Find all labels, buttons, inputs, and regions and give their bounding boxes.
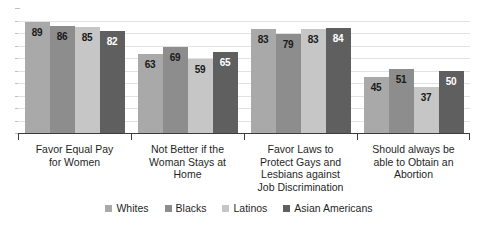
category-label-line: for Women [21, 156, 128, 169]
legend-item-3[interactable]: Asian Americans [283, 203, 372, 214]
bar-groups: 89868582636959658379838445513750 [18, 8, 470, 133]
bar-value-label: 51 [389, 75, 414, 85]
bar: 63 [138, 54, 163, 133]
bar-value-label: 79 [276, 40, 301, 50]
category-label-line: able to Obtain an [360, 156, 467, 169]
bar-value-label: 69 [163, 53, 188, 63]
category-label-line: Protect Gays and [247, 156, 354, 169]
category-label-2: Favor Laws toProtect Gays andLesbians ag… [244, 143, 357, 193]
legend-label: Asian Americans [294, 203, 372, 214]
category-label-0: Favor Equal Payfor Women [18, 143, 131, 193]
legend-item-0[interactable]: Whites [105, 203, 148, 214]
bar: 79 [276, 34, 301, 133]
legend-swatch-icon [222, 205, 229, 212]
bar-value-label: 83 [251, 35, 276, 45]
bar: 45 [364, 77, 389, 133]
bar-value-label: 85 [75, 33, 100, 43]
category-label-line: Favor Laws to [247, 143, 354, 156]
bar-value-label: 89 [25, 28, 50, 38]
category-label-line: Abortion [360, 168, 467, 181]
bar-value-label: 84 [326, 34, 351, 44]
category-label-1: Not Better if theWoman Stays atHome [131, 143, 244, 193]
x-axis-group-tick [357, 133, 358, 140]
category-label-line: Home [134, 168, 241, 181]
legend-swatch-icon [283, 205, 290, 212]
bar: 84 [326, 28, 351, 133]
bar-value-label: 86 [50, 32, 75, 42]
x-axis-group-tick [469, 133, 470, 140]
category-label-line: Favor Equal Pay [21, 143, 128, 156]
x-axis-group-tick [18, 133, 19, 140]
bar: 83 [301, 29, 326, 133]
legend-swatch-icon [165, 205, 172, 212]
legend-label: Blacks [176, 203, 207, 214]
legend-swatch-icon [105, 205, 112, 212]
category-label-line: Lesbians against [247, 168, 354, 181]
x-axis-group-tick [131, 133, 132, 140]
category-label-line: Not Better if the [134, 143, 241, 156]
bar: 51 [389, 69, 414, 133]
plot-area: 89868582636959658379838445513750 [18, 8, 470, 133]
category-label-3: Should always beable to Obtain anAbortio… [357, 143, 470, 193]
bar-group: 83798384 [244, 8, 357, 133]
bar: 69 [163, 47, 188, 133]
category-labels: Favor Equal Payfor WomenNot Better if th… [18, 143, 470, 193]
bar: 89 [25, 22, 50, 133]
bar-value-label: 83 [301, 35, 326, 45]
legend-item-2[interactable]: Latinos [222, 203, 267, 214]
bar: 86 [50, 26, 75, 134]
bar-value-label: 50 [439, 77, 464, 87]
bar: 83 [251, 29, 276, 133]
bar-value-label: 63 [138, 60, 163, 70]
bar-group: 89868582 [18, 8, 131, 133]
bar-value-label: 65 [213, 58, 238, 68]
bar-value-label: 82 [100, 37, 125, 47]
bar-value-label: 45 [364, 83, 389, 93]
bar: 85 [75, 27, 100, 133]
chart-legend: WhitesBlacksLatinosAsian Americans [0, 203, 478, 214]
bar-group: 63695965 [131, 8, 244, 133]
legend-item-1[interactable]: Blacks [165, 203, 207, 214]
bar: 37 [414, 87, 439, 133]
bar: 50 [439, 71, 464, 134]
category-label-line: Should always be [360, 143, 467, 156]
bar: 82 [100, 31, 125, 134]
bar-group: 45513750 [357, 8, 470, 133]
category-label-line: Job Discrimination [247, 181, 354, 194]
bar: 59 [188, 59, 213, 133]
legend-label: Latinos [233, 203, 267, 214]
bar-value-label: 37 [414, 93, 439, 103]
x-axis-group-tick [244, 133, 245, 140]
category-label-line: Woman Stays at [134, 156, 241, 169]
bar-value-label: 59 [188, 65, 213, 75]
x-axis [18, 133, 470, 141]
bar-chart: 89868582636959658379838445513750 Favor E… [0, 0, 478, 230]
bar: 65 [213, 52, 238, 133]
legend-label: Whites [116, 203, 148, 214]
